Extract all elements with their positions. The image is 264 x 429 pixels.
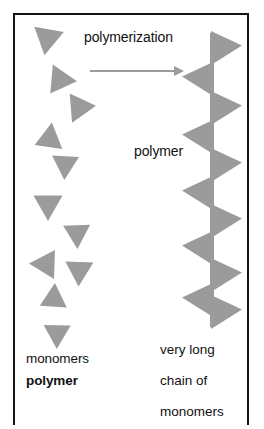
chain-unit-10 bbox=[182, 283, 213, 317]
monomer-2 bbox=[50, 65, 78, 96]
monomer-3 bbox=[59, 93, 96, 128]
chain-unit-8 bbox=[182, 231, 213, 265]
chain-unit-6 bbox=[182, 176, 213, 210]
chain-unit-5 bbox=[211, 148, 242, 182]
label-monomers: monomers bbox=[26, 352, 89, 366]
chain-unit-2 bbox=[182, 62, 213, 96]
chain-unit-7 bbox=[211, 204, 242, 238]
arrow-head bbox=[174, 66, 184, 76]
chain-unit-4 bbox=[182, 120, 213, 154]
label-very-long-chain-of-monomers: very long chain of monomers bbox=[160, 326, 224, 429]
label-polymer-bold: polymer bbox=[26, 374, 78, 388]
label-polymer-middle: polymer bbox=[134, 144, 183, 158]
monomer-1 bbox=[30, 27, 64, 58]
label-polymerization: polymerization bbox=[84, 30, 173, 44]
polymer-chain-group bbox=[182, 31, 242, 329]
monomer-group bbox=[28, 27, 96, 350]
monomer-4 bbox=[35, 121, 66, 149]
chain-label-line-1: very long bbox=[160, 342, 224, 358]
chain-unit-11 bbox=[211, 295, 242, 329]
chain-label-line-3: monomers bbox=[160, 404, 224, 420]
monomer-10 bbox=[40, 282, 69, 308]
chain-unit-3 bbox=[211, 91, 242, 125]
chain-label-line-2: chain of bbox=[160, 373, 224, 389]
monomer-8 bbox=[28, 249, 55, 279]
monomer-7 bbox=[63, 225, 91, 250]
monomer-5 bbox=[51, 156, 79, 181]
monomer-11 bbox=[43, 325, 70, 349]
chain-unit-9 bbox=[211, 258, 242, 292]
monomer-6 bbox=[34, 196, 63, 222]
monomer-9 bbox=[65, 261, 94, 287]
chain-unit-1 bbox=[211, 31, 242, 65]
polymerization-arrow bbox=[90, 66, 184, 76]
